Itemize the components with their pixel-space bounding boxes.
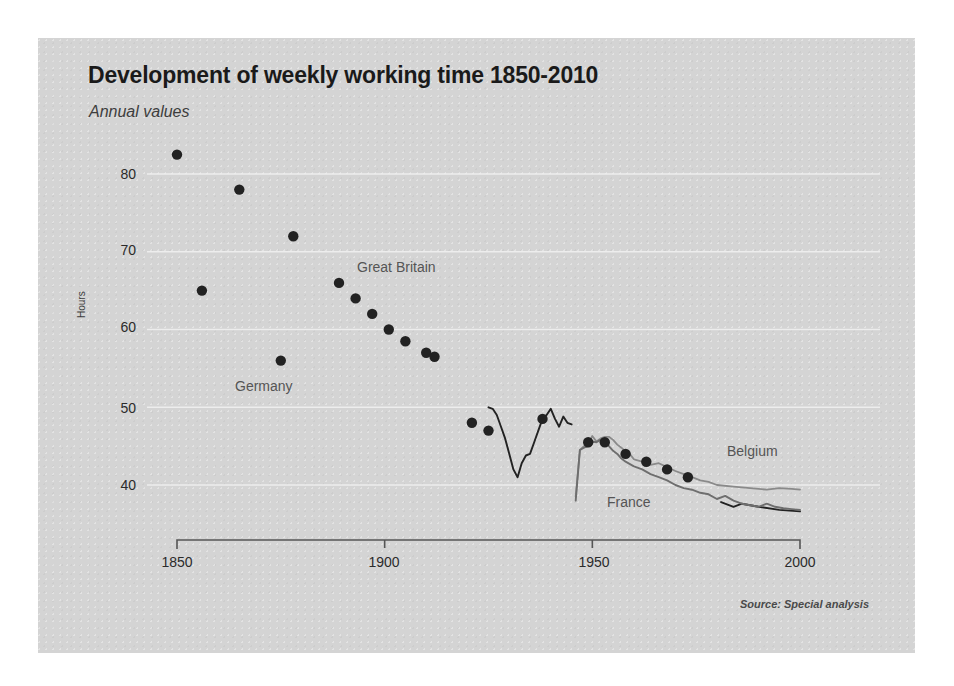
gridlines xyxy=(147,174,880,485)
chart-plot-area xyxy=(0,0,954,686)
chart-page: Development of weekly working time 1850-… xyxy=(0,0,954,686)
scatter-markers-group xyxy=(172,149,693,482)
x-axis-line xyxy=(177,540,800,549)
